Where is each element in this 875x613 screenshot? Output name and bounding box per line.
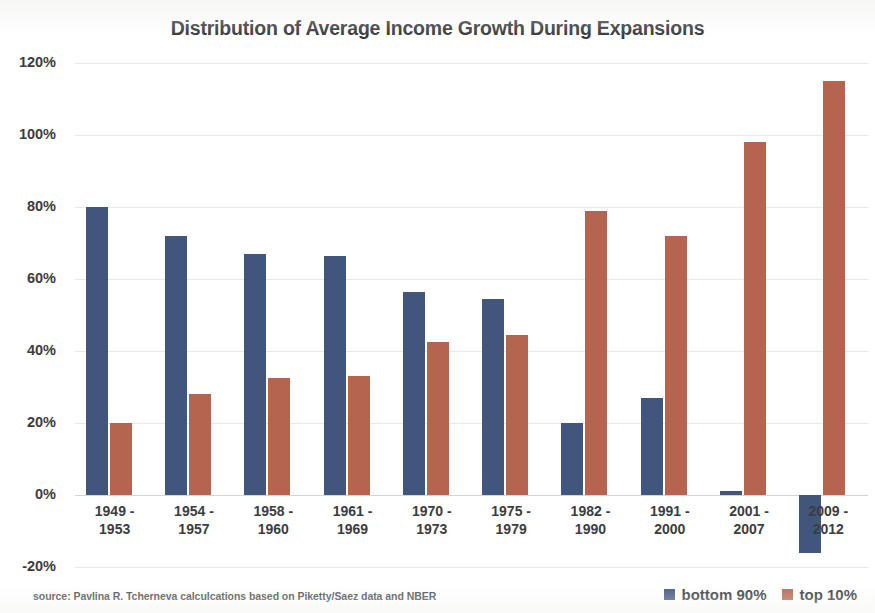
source-note: source: Pavlina R. Tcherneva calculcatio… [33,590,436,602]
x-axis-label-line2: 1969 [313,520,392,538]
bar-bottom-90--1949-1953 [86,207,108,495]
bar-bottom-90--1970-1973 [403,292,425,495]
chart-title: Distribution of Average Income Growth Du… [0,17,875,40]
y-axis-tick-label: 40% [0,342,56,358]
bar-top-10--1970-1973 [427,342,449,495]
x-axis-category-label: 1970 -1973 [392,502,471,538]
bar-bottom-90--2001-2007 [720,491,742,495]
bar-bottom-90--1991-2000 [641,398,663,495]
x-axis-category-label: 1949 -1953 [75,502,154,538]
bar-top-10--1961-1969 [348,376,370,495]
x-axis-label-line2: 2012 [789,520,868,538]
legend-label-top-10: top 10% [799,586,857,603]
bar-bottom-90--1975-1979 [482,299,504,495]
legend-swatch-icon-bottom-90 [664,589,675,600]
bar-top-10--1975-1979 [506,335,528,495]
x-axis-label-line2: 1979 [472,520,551,538]
bar-bottom-90--1982-1990 [561,423,583,495]
y-axis-tick-label: 0% [0,486,56,502]
y-axis-tick-label: 60% [0,270,56,286]
y-axis-tick-label: 20% [0,414,56,430]
x-axis-label-line2: 1953 [75,520,154,538]
x-axis-label-line1: 1954 - [174,503,214,519]
x-axis-label-line1: 1970 - [412,503,452,519]
y-axis-tick-label: 100% [0,126,56,142]
income-growth-bar-chart: Distribution of Average Income Growth Du… [0,0,875,613]
x-axis-label-line2: 1973 [392,520,471,538]
bar-top-10--1958-1960 [268,378,290,495]
x-axis-category-label: 2009 -2012 [789,502,868,538]
bar-bottom-90--1961-1969 [324,256,346,495]
bar-bottom-90--1954-1957 [165,236,187,495]
x-axis-category-label: 2001 -2007 [709,502,788,538]
plot-area: -20%0%20%40%60%80%100%120%1949 -19531954… [75,63,868,567]
x-axis-label-line2: 2000 [630,520,709,538]
x-axis-label-line1: 1961 - [333,503,373,519]
x-axis-category-label: 1991 -2000 [630,502,709,538]
x-axis-category-label: 1954 -1957 [154,502,233,538]
legend-item-bottom-90[interactable]: bottom 90% [664,586,766,603]
x-axis-label-line1: 1982 - [571,503,611,519]
x-axis-label-line2: 1990 [551,520,630,538]
x-axis-category-label: 1982 -1990 [551,502,630,538]
y-axis-tick-label: 80% [0,198,56,214]
gridline [75,495,868,496]
y-axis-tick-label: 120% [0,54,56,70]
bar-top-10--1949-1953 [110,423,132,495]
legend-label-bottom-90: bottom 90% [681,586,766,603]
y-axis-tick-label: -20% [0,558,56,574]
x-axis-label-line2: 1960 [234,520,313,538]
x-axis-label-line2: 2007 [709,520,788,538]
x-axis-label-line1: 1949 - [95,503,135,519]
legend-item-top-10[interactable]: top 10% [782,586,857,603]
x-axis-label-line1: 1975 - [491,503,531,519]
x-axis-category-label: 1961 -1969 [313,502,392,538]
x-axis-category-label: 1975 -1979 [472,502,551,538]
x-axis-category-label: 1958 -1960 [234,502,313,538]
x-axis-label-line1: 2009 - [808,503,848,519]
x-axis-label-line1: 1958 - [253,503,293,519]
gridline [75,135,868,136]
bar-top-10--2009-2012 [823,81,845,495]
bar-bottom-90--1958-1960 [244,254,266,495]
x-axis-label-line1: 2001 - [729,503,769,519]
bar-top-10--1991-2000 [665,236,687,495]
x-axis-label-line2: 1957 [154,520,233,538]
bar-top-10--2001-2007 [744,142,766,495]
bar-top-10--1954-1957 [189,394,211,495]
gridline [75,63,868,64]
chart-legend: bottom 90% top 10% [664,586,857,603]
x-axis-label-line1: 1991 - [650,503,690,519]
bar-top-10--1982-1990 [585,211,607,495]
gridline [75,567,868,568]
legend-swatch-icon-top-10 [782,589,793,600]
